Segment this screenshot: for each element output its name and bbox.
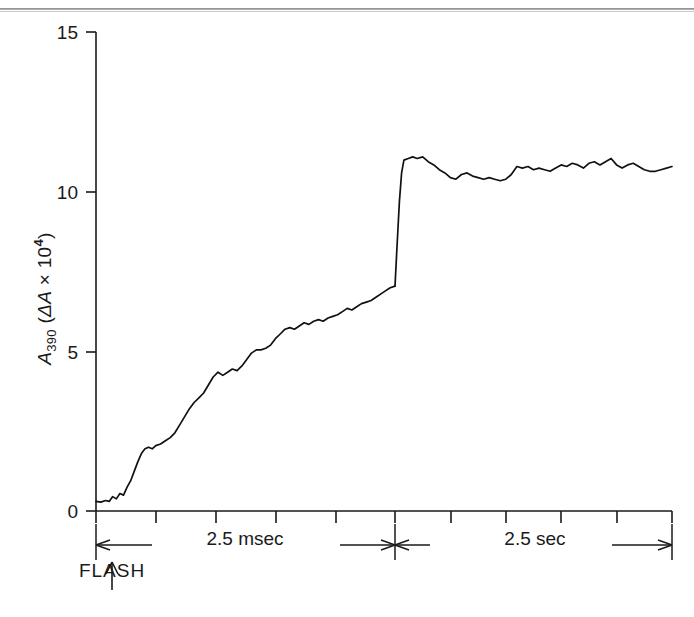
y-tick-label-5: 5 bbox=[67, 342, 78, 363]
y-axis-label: A390 (ΔA × 104) bbox=[31, 174, 58, 424]
x-axis-segment-label-sec: 2.5 sec bbox=[455, 528, 615, 550]
y-axis-label-paren-open: ( bbox=[34, 317, 55, 324]
figure-panel: 15 10 5 0 A390 (ΔA × 104) 2.5 msec 2.5 s… bbox=[0, 0, 694, 617]
flash-annotation: FLASH bbox=[52, 560, 172, 582]
y-axis bbox=[86, 32, 96, 511]
y-axis-label-delta: ΔA bbox=[34, 291, 55, 317]
y-axis-label-exponent: 4 bbox=[31, 239, 46, 247]
x-axis-segment-label-msec: 2.5 msec bbox=[165, 528, 325, 550]
y-axis-label-paren-close: ) bbox=[34, 232, 55, 239]
trace-segment-sec bbox=[395, 157, 672, 286]
plot-svg: 15 10 5 0 bbox=[0, 0, 694, 617]
flash-label: FLASH bbox=[52, 560, 172, 582]
y-tick-label-15: 15 bbox=[57, 22, 78, 43]
data-trace bbox=[96, 157, 672, 502]
y-tick-label-10: 10 bbox=[57, 182, 78, 203]
y-tick-label-0: 0 bbox=[67, 501, 78, 522]
y-axis-label-times: × 10 bbox=[34, 247, 55, 291]
y-axis-label-subscript: 390 bbox=[44, 329, 59, 352]
x-axis bbox=[96, 511, 672, 523]
y-axis-label-symbol: A bbox=[34, 352, 55, 365]
trace-segment-msec bbox=[96, 286, 395, 502]
